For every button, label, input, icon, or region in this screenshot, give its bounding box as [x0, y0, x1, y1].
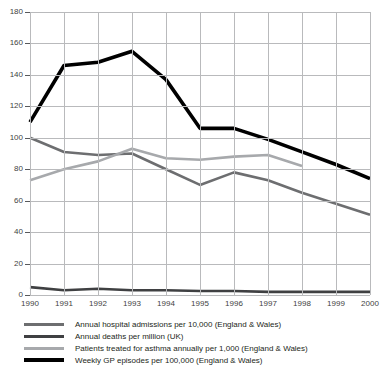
- legend-item-label: Annual deaths per million (UK): [75, 332, 184, 341]
- y-tick-mark: [25, 75, 30, 76]
- gridline-vertical: [98, 12, 99, 295]
- gridline-vertical: [234, 12, 235, 295]
- legend-item[interactable]: Annual deaths per million (UK): [24, 330, 374, 342]
- gridline-vertical: [370, 12, 371, 295]
- gridline-vertical: [30, 12, 31, 295]
- gridline-vertical: [132, 12, 133, 295]
- y-tick-mark: [25, 138, 30, 139]
- gridline-vertical: [64, 12, 65, 295]
- y-tick-mark: [25, 295, 30, 296]
- legend-item-label: Annual hospital admissions per 10,000 (E…: [75, 320, 281, 329]
- chart-legend: Annual hospital admissions per 10,000 (E…: [24, 318, 374, 366]
- y-tick-label: 0: [0, 291, 23, 299]
- y-tick-label: 100: [0, 134, 23, 142]
- y-tick-label: 80: [0, 165, 23, 173]
- y-tick-label: 60: [0, 197, 23, 205]
- legend-item-label: Weekly GP episodes per 100,000 (England …: [75, 356, 263, 365]
- y-tick-label: 140: [0, 71, 23, 79]
- gridline-horizontal: [30, 295, 370, 296]
- y-tick-mark: [25, 12, 30, 13]
- x-tick-label: 2000: [350, 299, 381, 308]
- legend-item[interactable]: Annual hospital admissions per 10,000 (E…: [24, 318, 374, 330]
- y-tick-mark: [25, 264, 30, 265]
- y-tick-label: 160: [0, 39, 23, 47]
- legend-color-swatch: [24, 335, 64, 338]
- chart-figure: 020406080100120140160180 199019911992199…: [0, 0, 381, 368]
- y-tick-mark: [25, 201, 30, 202]
- legend-item[interactable]: Weekly GP episodes per 100,000 (England …: [24, 354, 374, 366]
- y-tick-mark: [25, 169, 30, 170]
- gridline-vertical: [336, 12, 337, 295]
- y-tick-mark: [25, 106, 30, 107]
- y-tick-mark: [25, 43, 30, 44]
- gridline-vertical: [166, 12, 167, 295]
- y-tick-label: 180: [0, 8, 23, 16]
- legend-item[interactable]: Patients treated for asthma annually per…: [24, 342, 374, 354]
- y-tick-label: 40: [0, 228, 23, 236]
- chart-title: [0, 0, 381, 1]
- y-tick-mark: [25, 232, 30, 233]
- legend-color-swatch: [24, 347, 64, 350]
- gridline-vertical: [200, 12, 201, 295]
- y-tick-label: 20: [0, 260, 23, 268]
- legend-item-label: Patients treated for asthma annually per…: [75, 344, 308, 353]
- legend-color-swatch: [24, 358, 64, 362]
- gridline-vertical: [268, 12, 269, 295]
- y-tick-label: 120: [0, 102, 23, 110]
- gridline-vertical: [302, 12, 303, 295]
- legend-color-swatch: [24, 323, 64, 326]
